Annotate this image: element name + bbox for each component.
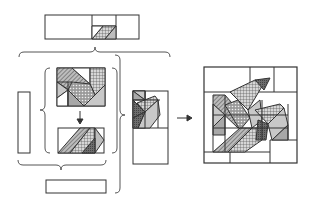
inner-right-brace [112,68,117,153]
finished-block [204,67,297,163]
down-arrow [77,111,83,124]
lower-unit [58,128,104,153]
left-strip [18,92,30,153]
right-arrow [177,115,192,121]
upper-unit [57,68,105,106]
assembly-diagram [0,0,315,205]
top-strip [45,15,139,39]
inner-left-brace [40,68,50,153]
mid-bottom-brace [18,160,106,170]
bottom-strip [46,180,106,193]
top-brace [19,47,170,57]
side-column [133,91,168,164]
